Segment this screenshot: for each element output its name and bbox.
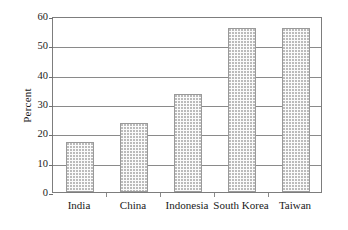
- x-axis-tick-label: Taiwan: [279, 198, 311, 212]
- bar: [282, 28, 310, 192]
- y-axis-tick-label: 60: [26, 12, 48, 22]
- x-axis-tick-mark: [106, 193, 107, 197]
- x-axis-tick-mark: [214, 193, 215, 197]
- bar: [174, 94, 202, 192]
- bar-chart: Percent 0102030405060 IndiaChinaIndonesi…: [0, 0, 348, 230]
- plot-area: [52, 17, 322, 193]
- x-axis-tick-label: China: [120, 198, 146, 212]
- y-axis-tick-label: 0: [26, 188, 48, 198]
- bars-group: [53, 18, 321, 192]
- x-axis-tick-label: Indonesia: [166, 198, 209, 212]
- x-axis-tick-labels: IndiaChinaIndonesiaSouth KoreaTaiwan: [52, 198, 322, 218]
- bar: [66, 142, 94, 192]
- bar: [120, 123, 148, 192]
- x-axis-tick-mark: [268, 193, 269, 197]
- x-axis-tick-mark: [160, 193, 161, 197]
- y-axis-tick-label: 50: [26, 41, 48, 51]
- y-axis-tick-labels: 0102030405060: [26, 0, 48, 230]
- x-axis-tick-label: South Korea: [213, 198, 268, 212]
- y-axis-tick-label: 40: [26, 71, 48, 81]
- y-axis-tick-label: 20: [26, 129, 48, 139]
- y-axis-tick-mark: [49, 194, 53, 195]
- y-axis-tick-label: 30: [26, 100, 48, 110]
- x-axis-tick-label: India: [68, 198, 91, 212]
- y-axis-tick-label: 10: [26, 159, 48, 169]
- bar: [228, 28, 256, 192]
